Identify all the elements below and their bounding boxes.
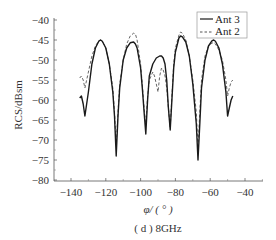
y-tick-label: −80 [32, 174, 50, 186]
y-tick-label: −45 [32, 34, 50, 46]
y-tick-label: −70 [32, 134, 50, 146]
figure-caption: ( d ) 8GHz [134, 222, 181, 235]
x-axis-title: φ/ ( ° ) [143, 203, 172, 216]
y-tick-label: −60 [32, 94, 50, 106]
x-tick-label: −100 [129, 186, 152, 198]
y-tick-label: −55 [32, 74, 50, 86]
x-tick-label: −120 [94, 186, 117, 198]
y-tick-label: −50 [32, 54, 50, 66]
legend-label-ant3: Ant 3 [215, 13, 240, 25]
legend: Ant 3 Ant 2 [197, 12, 247, 38]
series-line-ant-2 [80, 32, 233, 148]
legend-label-ant2: Ant 2 [215, 25, 240, 37]
y-tick-label: −40 [32, 14, 50, 26]
y-tick-label: −75 [32, 154, 50, 166]
plot-series [80, 32, 233, 160]
y-axis-title: RCS/dBsm [12, 80, 24, 130]
x-tick-label: −40 [236, 186, 254, 198]
rcs-chart: −40−45−50−55−60−65−70−75−80 −140−120−100… [0, 0, 276, 240]
x-tick-label: −80 [167, 186, 185, 198]
series-line-ant-3 [80, 36, 233, 160]
y-tick-label: −65 [32, 114, 50, 126]
x-tick-label: −140 [60, 186, 83, 198]
x-tick-label: −60 [202, 186, 220, 198]
y-ticks: −40−45−50−55−60−65−70−75−80 [32, 14, 57, 186]
